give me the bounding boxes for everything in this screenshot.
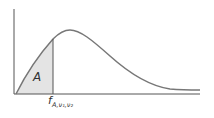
critical-value-subscript: A,ν₁,ν₂ bbox=[52, 101, 73, 109]
area-label: A bbox=[33, 70, 41, 84]
f-distribution-diagram bbox=[0, 0, 214, 118]
critical-value-label: fA,ν₁,ν₂ bbox=[48, 94, 73, 107]
shaded-area-region bbox=[16, 39, 53, 94]
